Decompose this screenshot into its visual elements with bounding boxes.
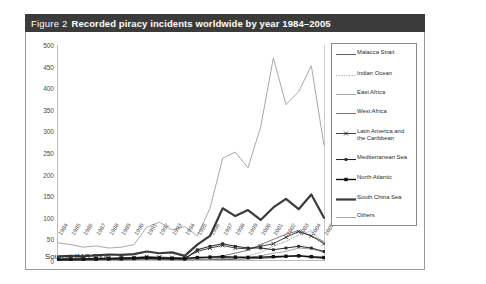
legend-swatch bbox=[335, 50, 357, 59]
legend-item-label: South China Sea bbox=[357, 194, 402, 201]
legend-item-label: Others bbox=[357, 212, 375, 219]
legend-item[interactable]: Indian Ocean bbox=[335, 70, 415, 80]
y-axis-tick-label: 50 bbox=[47, 236, 54, 243]
figure-title: Recorded piracy incidents worldwide by y… bbox=[71, 18, 330, 29]
legend-swatch bbox=[335, 129, 357, 138]
figure-source: Source: IMO 2006 bbox=[45, 252, 110, 261]
legend-swatch bbox=[335, 175, 357, 184]
legend-swatch bbox=[335, 71, 357, 80]
chart-legend: Malacca StraitIndian OceanEast AfricaWes… bbox=[331, 43, 417, 226]
legend-item[interactable]: Latin America and the Caribbean bbox=[335, 128, 415, 141]
y-axis-tick-label: 100 bbox=[43, 214, 54, 221]
legend-item[interactable]: Others bbox=[335, 212, 415, 222]
legend-item-label: West Africa bbox=[357, 108, 387, 115]
legend-item-label: Indian Ocean bbox=[357, 70, 392, 77]
y-axis-tick-label: 250 bbox=[43, 150, 54, 157]
chart-area: 050100150200250300350400450500 198419851… bbox=[26, 34, 424, 249]
legend-item-label: Malacca Strait bbox=[357, 49, 394, 56]
legend-item-label: North Atlantic bbox=[357, 174, 392, 181]
figure-label: Figure 2 bbox=[31, 18, 67, 29]
x-axis-labels: 1984198519861987198819891990199119921993… bbox=[57, 230, 325, 270]
y-axis-tick-label: 350 bbox=[43, 106, 54, 113]
legend-item-label: Latin America and the Caribbean bbox=[357, 128, 413, 141]
legend-item-label: Mediterranean Sea bbox=[357, 154, 407, 161]
y-axis-tick-label: 450 bbox=[43, 63, 54, 70]
y-axis-tick-label: 200 bbox=[43, 171, 54, 178]
legend-swatch bbox=[335, 195, 357, 204]
legend-swatch bbox=[335, 109, 357, 118]
y-axis-tick-label: 300 bbox=[43, 128, 54, 135]
legend-swatch bbox=[335, 213, 357, 222]
figure-source-text: Source: IMO 2006 bbox=[45, 252, 110, 261]
figure-title-bar: Figure 2 Recorded piracy incidents world… bbox=[25, 14, 425, 32]
figure-root: Figure 2 Recorded piracy incidents world… bbox=[0, 0, 486, 284]
legend-item[interactable]: East Africa bbox=[335, 89, 415, 99]
y-axis-tick-label: 500 bbox=[43, 42, 54, 49]
legend-item[interactable]: West Africa bbox=[335, 108, 415, 118]
legend-swatch bbox=[335, 90, 357, 99]
y-axis-tick-label: 150 bbox=[43, 193, 54, 200]
y-axis-labels: 050100150200250300350400450500 bbox=[26, 34, 57, 250]
legend-item[interactable]: Mediterranean Sea bbox=[335, 154, 415, 164]
series-line bbox=[58, 58, 324, 248]
legend-item-label: East Africa bbox=[357, 89, 385, 96]
legend-item[interactable]: Malacca Strait bbox=[335, 49, 415, 59]
legend-swatch bbox=[335, 155, 357, 164]
legend-item[interactable]: South China Sea bbox=[335, 194, 415, 204]
y-axis-tick-label: 400 bbox=[43, 85, 54, 92]
legend-item[interactable]: North Atlantic bbox=[335, 174, 415, 184]
